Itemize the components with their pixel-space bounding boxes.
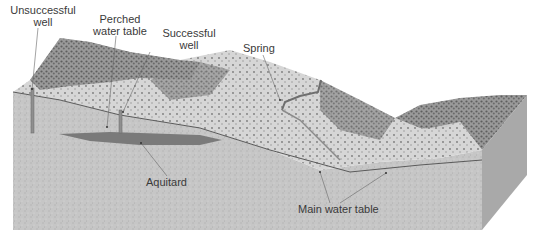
label-perched-water-table: Perched water table <box>88 13 152 37</box>
label-successful-well: Successful well <box>160 27 218 51</box>
label-line: Successful <box>160 27 218 39</box>
label-unsuccessful-well: Unsuccessful well <box>6 4 80 28</box>
label-line: Perched <box>88 13 152 25</box>
label-main-water-table: Main water table <box>298 203 379 215</box>
successful-well <box>119 110 122 133</box>
groundwater-diagram: Unsuccessful well Perched water table Su… <box>0 0 547 243</box>
diagram-canvas <box>0 0 547 243</box>
label-spring: Spring <box>243 42 275 54</box>
label-line: well <box>6 16 80 28</box>
unsuccessful-well <box>31 88 34 133</box>
label-aquitard: Aquitard <box>146 176 187 188</box>
label-line: Unsuccessful <box>6 4 80 16</box>
label-line: well <box>160 39 218 51</box>
label-line: water table <box>88 25 152 37</box>
